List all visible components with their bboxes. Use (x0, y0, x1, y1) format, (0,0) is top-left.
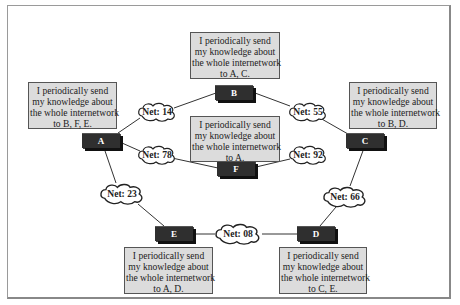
note-line: my knowledge about (126, 261, 211, 272)
network-cloud-14: Net: 14 (137, 102, 177, 122)
network-cloud-23: Net: 23 (99, 183, 145, 205)
note-router-c: I periodically send my knowledge about t… (349, 82, 437, 129)
network-label: Net: 66 (322, 186, 368, 208)
note-router-f: I periodically send my knowledge about t… (190, 116, 280, 162)
network-label: Net: 55 (288, 102, 328, 122)
note-line: my knowledge about (351, 96, 435, 107)
note-router-b: I periodically send my knowledge about t… (190, 32, 280, 79)
network-label: Net: 23 (99, 183, 145, 205)
network-label: Net: 14 (137, 102, 177, 122)
note-line: the whole internetwork (30, 107, 115, 118)
router-e: E (155, 226, 193, 241)
note-line: I periodically send (30, 85, 115, 96)
note-line: to C, E. (281, 283, 365, 294)
router-c: C (346, 133, 384, 148)
note-router-a: I periodically send my knowledge about t… (28, 82, 117, 129)
network-label: Net: 78 (137, 145, 177, 165)
network-cloud-66: Net: 66 (322, 186, 368, 208)
note-router-d: I periodically send my knowledge about t… (279, 247, 367, 294)
network-label: Net: 08 (214, 223, 262, 245)
note-line: the whole internetwork (192, 57, 278, 68)
note-line: I periodically send (192, 119, 278, 130)
network-cloud-08: Net: 08 (214, 223, 262, 245)
network-cloud-78: Net: 78 (137, 145, 177, 165)
note-line: to B, F, E. (30, 118, 115, 129)
note-line: to A, D. (126, 283, 211, 294)
note-line: my knowledge about (30, 96, 115, 107)
note-line: I periodically send (126, 250, 211, 261)
network-cloud-92: Net: 92 (288, 145, 328, 165)
network-cloud-55: Net: 55 (288, 102, 328, 122)
note-line: I periodically send (281, 250, 365, 261)
router-b: B (215, 85, 253, 100)
router-d: D (297, 226, 335, 241)
note-line: the whole internetwork (192, 141, 278, 152)
note-line: my knowledge about (192, 46, 278, 57)
note-line: the whole internetwork (126, 272, 211, 283)
note-line: the whole internetwork (281, 272, 365, 283)
note-line: I periodically send (351, 85, 435, 96)
note-line: the whole internetwork (351, 107, 435, 118)
note-router-e: I periodically send my knowledge about t… (124, 247, 213, 294)
note-line: to B, D. (351, 118, 435, 129)
note-line: to A, C. (192, 68, 278, 79)
router-a: A (82, 133, 120, 148)
router-f: F (217, 161, 255, 176)
note-line: I periodically send (192, 35, 278, 46)
note-line: my knowledge about (192, 130, 278, 141)
network-label: Net: 92 (288, 145, 328, 165)
note-line: my knowledge about (281, 261, 365, 272)
